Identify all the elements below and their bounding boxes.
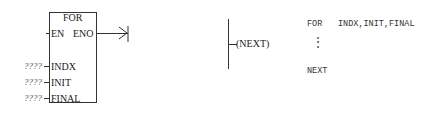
init-value[interactable]: ????: [24, 78, 42, 87]
eno-label: ENO: [73, 29, 94, 39]
stl-next: NEXT: [307, 67, 327, 76]
final-value[interactable]: ????: [24, 94, 42, 103]
stl-for-args: INDX,INIT,FINAL: [338, 20, 415, 29]
init-pin: [44, 82, 50, 83]
en-pin: [46, 33, 50, 34]
stl-for-keyword: FOR: [307, 20, 322, 29]
en-label: EN: [51, 29, 64, 39]
indx-value[interactable]: ????: [24, 62, 42, 71]
indx-pin: [44, 66, 50, 67]
for-block-frame: [49, 12, 97, 103]
final-label: FINAL: [51, 94, 80, 104]
init-label: INIT: [51, 78, 71, 88]
for-block-title: FOR: [63, 13, 82, 23]
next-coil-label: (NEXT): [236, 39, 269, 49]
final-pin: [44, 98, 50, 99]
stl-ellipsis: ⋮: [312, 36, 324, 50]
indx-label: INDX: [51, 62, 76, 72]
arrow-end-icon: [118, 25, 130, 43]
